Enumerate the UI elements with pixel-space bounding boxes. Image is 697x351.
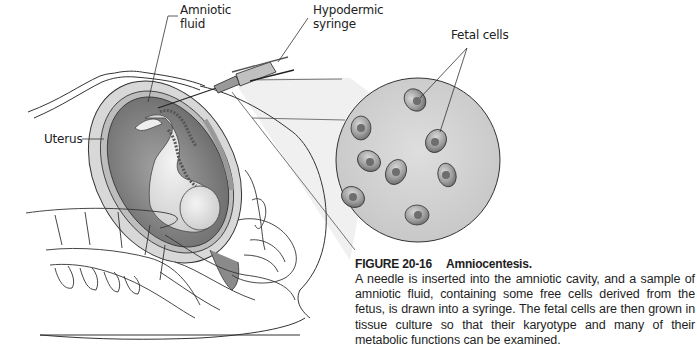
label-line: Hypodermic [313,3,383,17]
syringe-leader [278,18,308,62]
magnified-sample-circle [336,78,500,242]
label-line: syringe [313,17,383,31]
uterus-label: Uterus [44,132,82,146]
figure-title: Amniocentesis. [446,257,532,271]
amniotic-fluid-label: Amniotic fluid [180,3,231,31]
caption-title: FIGURE 20-16Amniocentesis. [355,257,695,272]
fetal-cell [351,116,371,140]
amniocentesis-figure: Amniotic fluid Hypodermic syringe Fetal … [0,0,697,351]
figure-caption: FIGURE 20-16Amniocentesis. A needle is i… [355,257,695,348]
fetal-cells-label: Fetal cells [451,28,509,42]
figure-number: FIGURE 20-16 [355,257,432,271]
caption-body: A needle is inserted into the amniotic c… [355,272,695,348]
label-line: fluid [180,17,231,31]
fetal-cell [405,205,429,225]
label-line: Amniotic [180,3,231,17]
hypodermic-syringe-label: Hypodermic syringe [313,3,383,31]
